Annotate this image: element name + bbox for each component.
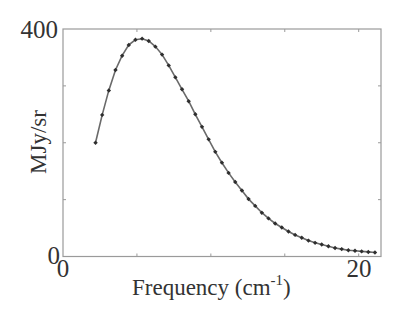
data-point-marker xyxy=(100,113,104,117)
x-axis-label: Frequency (cm-1) xyxy=(132,272,291,300)
x-axis-label-superscript: -1 xyxy=(271,272,284,288)
x-axis-label-close: ) xyxy=(283,275,291,300)
axis-ticks xyxy=(63,29,381,257)
x-axis-label-main: Frequency (cm xyxy=(132,275,271,300)
data-point-marker xyxy=(93,141,97,145)
data-point-marker xyxy=(306,238,310,242)
y-axis-label: MJy/sr xyxy=(26,110,51,174)
data-point-marker xyxy=(359,249,363,253)
y-tick-label-400: 400 xyxy=(21,16,59,43)
data-point-marker xyxy=(353,249,357,253)
data-point-marker xyxy=(333,246,337,250)
data-curve xyxy=(96,39,376,253)
plot-frame xyxy=(63,29,381,257)
data-point-marker xyxy=(346,248,350,252)
data-point-marker xyxy=(313,241,317,245)
data-point-marker xyxy=(320,242,324,246)
x-tick-label-0: 0 xyxy=(57,255,70,282)
data-point-marker xyxy=(107,88,111,92)
data-point-marker xyxy=(339,247,343,251)
data-point-marker xyxy=(140,36,144,40)
data-markers xyxy=(93,36,377,254)
x-tick-label-20: 20 xyxy=(347,255,372,282)
data-point-marker xyxy=(366,250,370,254)
chart: 400 0 0 20 MJy/sr Frequency (cm-1) xyxy=(0,0,400,315)
data-point-marker xyxy=(326,244,330,248)
data-point-marker xyxy=(373,250,377,254)
